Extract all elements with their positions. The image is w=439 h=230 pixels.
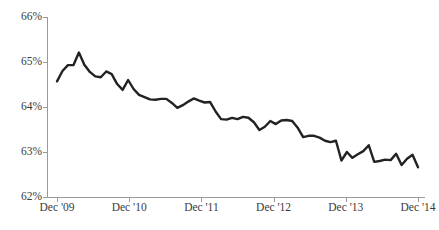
y-axis-tick-labels: 62%63%64%65%66% [21, 10, 43, 202]
x-tick-label: Dec '10 [112, 201, 147, 213]
data-line-series-0 [57, 53, 418, 168]
y-tick-label: 64% [21, 100, 43, 112]
x-tick-label: Dec '09 [40, 201, 75, 213]
y-tick-label: 66% [21, 10, 43, 22]
x-tick-label: Dec '12 [256, 201, 291, 213]
chart-axes [48, 17, 426, 198]
chart-series-group [57, 53, 418, 168]
x-tick-label: Dec '14 [401, 201, 436, 213]
y-tick-label: 63% [21, 145, 43, 157]
y-tick-label: 65% [21, 55, 43, 67]
line-chart: 62%63%64%65%66% Dec '09Dec '10Dec '11Dec… [0, 0, 439, 230]
y-axis-ticks [43, 18, 48, 198]
x-axis-tick-labels: Dec '09Dec '10Dec '11Dec '12Dec '13Dec '… [40, 201, 436, 213]
x-tick-label: Dec '11 [184, 201, 219, 213]
chart-container: 62%63%64%65%66% Dec '09Dec '10Dec '11Dec… [0, 0, 439, 230]
x-tick-label: Dec '13 [328, 201, 363, 213]
y-tick-label: 62% [21, 190, 43, 202]
